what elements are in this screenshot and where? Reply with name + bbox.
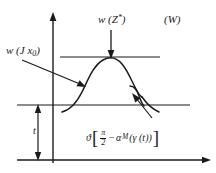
peak-label-close: )	[122, 13, 126, 25]
horizontal-axis	[17, 157, 211, 163]
formula-minus-sign: −	[108, 133, 115, 143]
peak-label: w (Z*)	[98, 14, 126, 25]
formula-numerator: π	[100, 129, 106, 137]
formula-bracket-close: ]	[153, 130, 159, 146]
wave-profile-notch	[130, 86, 144, 106]
figure-drawing	[0, 0, 216, 173]
left-label-pointer-arrow	[22, 60, 86, 87]
left-flank-label: w (J x0)	[6, 45, 40, 58]
formula-alpha-subscript: M	[122, 134, 128, 141]
formula-argument: (γ (t))	[129, 133, 152, 143]
formula-expression: ϑ [ π 2 − αM(γ (t)) ]	[86, 129, 159, 147]
peak-label-base: w (Z	[98, 13, 118, 25]
figure-canvas: w (Z*) (W) w (J x0) t ϑ [ π 2 − αM(γ (t)…	[0, 0, 216, 173]
formula-leading-symbol: ϑ	[86, 133, 91, 143]
vertical-axis	[50, 12, 57, 163]
formula-denominator: 2	[100, 139, 106, 147]
corner-label: (W)	[164, 14, 181, 25]
formula-bracket-open: [	[92, 130, 98, 146]
left-label-close: )	[36, 44, 40, 56]
left-label-base: w (J x	[6, 44, 32, 56]
formula-fraction: π 2	[100, 129, 106, 147]
wave-profile-curve	[62, 58, 142, 112]
peak-pointer-arrow	[108, 30, 115, 59]
height-label: t	[33, 126, 36, 136]
formula-alpha-symbol: α	[116, 133, 121, 143]
